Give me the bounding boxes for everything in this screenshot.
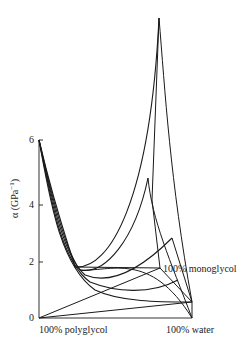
y-tick-label-4: 4 bbox=[29, 200, 34, 210]
label-monoglycol: 100% monoglycol bbox=[163, 264, 237, 274]
y-axis-label: α (GPa−1) bbox=[8, 179, 20, 218]
y-tick-label-2: 2 bbox=[29, 257, 34, 267]
cross-curve-1 bbox=[159, 18, 192, 302]
alpha-curve-5 bbox=[39, 18, 159, 267]
y-tick-label-6: 6 bbox=[29, 135, 34, 145]
alpha-chart bbox=[0, 0, 251, 352]
alpha-curve-4 bbox=[39, 140, 148, 270]
label-water: 100% water bbox=[166, 325, 214, 335]
base-line-1 bbox=[39, 302, 192, 318]
cross-curve-3 bbox=[148, 178, 192, 318]
composition-base bbox=[39, 268, 192, 318]
cross-curve-2 bbox=[152, 18, 160, 268]
base-line-2 bbox=[39, 268, 160, 318]
label-polyglycol: 100% polyglycol bbox=[39, 325, 108, 335]
y-tick-label-0: 0 bbox=[29, 313, 34, 323]
alpha-curve-3 bbox=[39, 140, 172, 278]
